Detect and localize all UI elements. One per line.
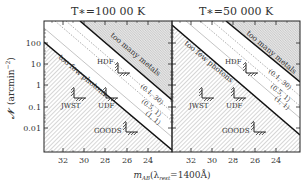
survey-label-jwst: JWST: [188, 102, 209, 110]
svg-text:30: 30: [79, 156, 89, 165]
survey-label-goods: GOODS: [94, 127, 122, 135]
svg-text:32: 32: [58, 156, 68, 165]
left-panel-plot: too few photons too many metals (0.1, 30…: [44, 21, 172, 152]
survey-label-goods: GOODS: [222, 127, 250, 135]
survey-label-hdf: HDF: [97, 58, 114, 66]
survey-label-udf: UDF: [98, 102, 115, 110]
svg-text:24: 24: [271, 156, 281, 165]
x-axis-label: mAB(λrest=1400Å): [133, 169, 210, 181]
svg-text:32: 32: [186, 156, 196, 165]
svg-text:26: 26: [122, 156, 132, 165]
svg-text:100: 100: [26, 39, 41, 48]
right-panel-plot: too few photons too many metals (0.1, 30…: [172, 16, 300, 152]
svg-text:𝒩 (arcmin−2): 𝒩 (arcmin−2): [4, 57, 16, 120]
survey-label-hdf: HDF: [225, 58, 242, 66]
svg-text:24: 24: [143, 156, 153, 165]
svg-text:30: 30: [207, 156, 217, 165]
svg-text:28: 28: [100, 156, 110, 165]
svg-text:0.01: 0.01: [23, 124, 41, 133]
survey-label-udf: UDF: [226, 102, 243, 110]
chart-figure: T∗=100 00 K T∗=50 000 K too few photons …: [0, 0, 306, 186]
x-tick-labels: 32 30 28 26 24 32 30 28 26 24: [58, 156, 281, 165]
y-tick-labels: 100 10 1 0.1 0.01: [23, 39, 41, 133]
svg-text:26: 26: [250, 156, 260, 165]
y-axis-label: 𝒩 (arcmin−2): [4, 57, 16, 120]
svg-text:28: 28: [228, 156, 238, 165]
panel-title-left: T∗=100 00 K: [71, 5, 146, 18]
svg-text:1: 1: [36, 81, 41, 90]
svg-text:10: 10: [31, 60, 41, 69]
survey-label-jwst: JWST: [60, 102, 81, 110]
panel-title-right: T∗=50 000 K: [199, 5, 274, 18]
svg-text:0.1: 0.1: [28, 103, 41, 112]
